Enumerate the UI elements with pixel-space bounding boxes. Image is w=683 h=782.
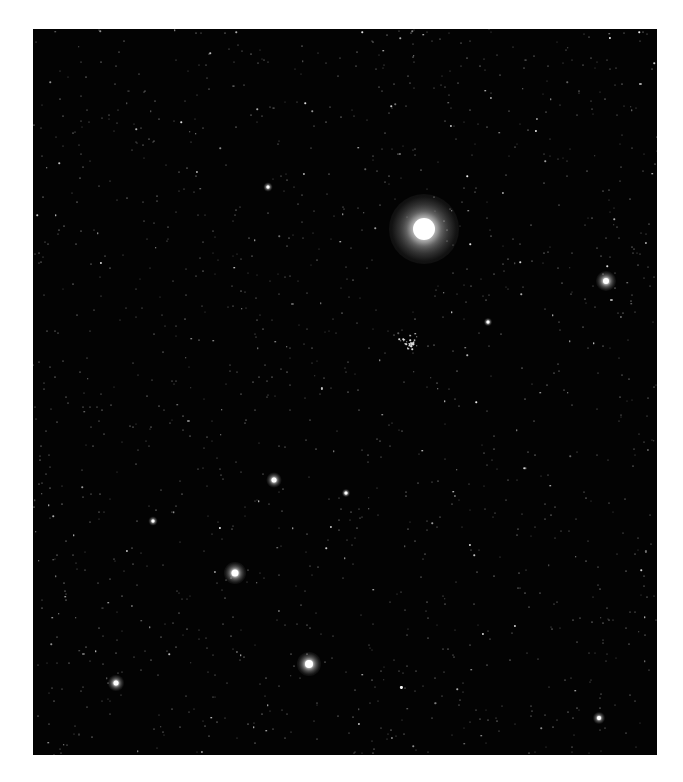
faint-star [138,449,139,450]
faint-star [203,551,204,552]
faint-star [593,343,595,345]
faint-star [639,31,641,33]
faint-star [520,244,521,245]
faint-star [195,176,196,177]
faint-star [149,505,150,506]
faint-star [619,237,620,238]
faint-star [569,267,571,269]
faint-star [414,154,415,155]
faint-star [221,474,222,475]
faint-star [289,275,290,276]
faint-star [203,270,204,271]
faint-star [469,109,470,110]
faint-star [292,527,294,529]
faint-star [647,597,648,598]
faint-star [435,703,437,705]
faint-star [328,540,329,541]
faint-star [225,164,226,165]
faint-star [340,57,341,58]
faint-star [138,73,139,74]
faint-star [583,34,584,35]
faint-star [470,669,472,671]
faint-star [500,75,501,76]
faint-star [415,318,416,319]
cluster-star [403,339,405,341]
faint-star [401,431,402,432]
faint-star [317,53,318,54]
faint-star [480,735,482,737]
faint-star [373,623,374,624]
faint-star [204,398,205,399]
faint-star [46,331,47,332]
faint-star [328,331,329,332]
faint-star [444,401,446,403]
faint-star [420,170,421,171]
faint-star [644,661,646,663]
faint-star [528,451,529,452]
faint-star [465,347,467,349]
faint-star [279,527,280,528]
faint-star [584,492,585,493]
faint-star [548,475,549,476]
faint-star [209,88,210,89]
faint-star [530,706,531,707]
faint-star [52,559,54,561]
faint-star [449,389,450,390]
faint-star [81,121,82,122]
faint-star [515,723,516,724]
faint-star [198,639,199,640]
faint-star [72,192,73,193]
faint-star [507,289,508,290]
faint-star [580,617,581,618]
faint-star [114,83,115,84]
faint-star [352,545,353,546]
faint-star [444,424,445,425]
faint-star [524,59,525,60]
faint-star [597,372,598,373]
faint-star [547,252,548,253]
faint-star [563,62,564,63]
faint-star [349,297,350,298]
faint-star [603,642,604,643]
faint-star [122,254,123,255]
faint-star [136,143,137,144]
faint-star [372,41,373,42]
faint-star [436,526,437,527]
faint-star [35,531,37,533]
faint-star [113,387,114,388]
faint-star [453,126,454,127]
faint-star [223,623,224,624]
faint-star [116,639,117,640]
faint-star [241,629,242,630]
faint-star [501,333,502,334]
star-right-icon [603,278,609,284]
faint-star [414,29,415,30]
faint-star [521,514,522,515]
faint-star [57,332,58,333]
faint-star [127,90,128,91]
faint-star [422,450,424,452]
faint-star [371,740,372,741]
faint-star [265,695,266,696]
faint-star [454,495,456,497]
faint-star [203,242,204,243]
faint-star [649,669,650,670]
faint-star [516,430,518,432]
faint-star [471,154,472,155]
faint-star [97,232,99,234]
faint-star [326,121,327,122]
faint-star [555,537,556,538]
faint-star [590,680,591,681]
faint-star [464,187,465,188]
faint-star [620,416,621,417]
faint-star [486,710,487,711]
faint-star [284,190,285,191]
faint-star [129,425,130,426]
faint-star [217,260,218,261]
faint-star [134,123,135,124]
faint-star [42,156,43,157]
faint-star [156,201,157,202]
faint-star [284,447,285,448]
faint-star [333,451,335,453]
faint-star [339,530,340,531]
